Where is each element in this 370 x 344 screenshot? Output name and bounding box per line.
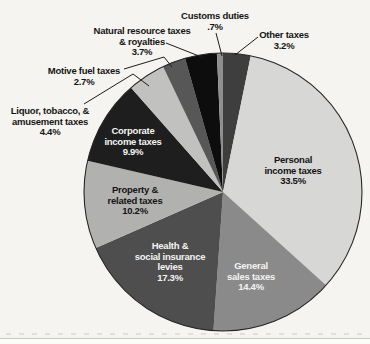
slice-label-other-taxes: Other taxes 3.2% — [259, 30, 309, 51]
slice-label-customs-duties: Customs duties .7% — [181, 11, 249, 32]
slice-label-natural-resource-taxes: Natural resource taxes & royalties 3.7% — [94, 26, 191, 58]
slice-label-health-insurance-levies: Health & social insurance levies 17.3% — [135, 241, 205, 283]
slice-label-personal-income-taxes: Personal income taxes 33.5% — [264, 155, 321, 187]
pie-chart-figure: Customs duties .7% Other taxes 3.2% Natu… — [0, 0, 370, 344]
leader-line-other-taxes — [235, 37, 258, 55]
slice-label-motive-fuel-taxes: Motive fuel taxes 2.7% — [48, 66, 120, 87]
slice-label-property-related-taxes: Property & related taxes 10.2% — [108, 185, 163, 217]
slice-label-general-sales-taxes: General sales taxes 14.4% — [227, 261, 275, 293]
scan-bleed-artifact — [6, 333, 364, 335]
slice-label-corporate-income-taxes: Corporate income taxes 9.9% — [104, 126, 161, 158]
slice-label-liquor-tobacco-taxes: Liquor, tobacco, & amusement taxes 4.4% — [11, 106, 89, 138]
page-edge-strip — [0, 338, 370, 344]
